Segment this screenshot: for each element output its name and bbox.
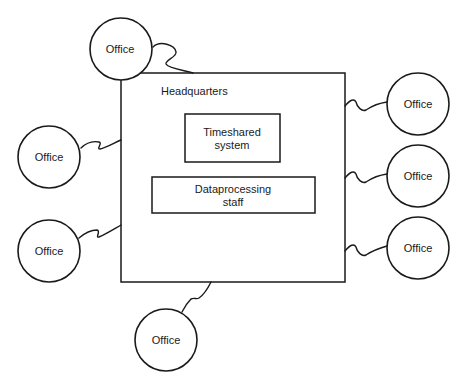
link-top-office bbox=[153, 44, 193, 73]
office-node-right-lower: Office bbox=[387, 217, 449, 279]
link-bottom-office bbox=[182, 282, 211, 312]
link-right-upper-office bbox=[345, 100, 387, 111]
office-node-right-middle: Office bbox=[387, 145, 449, 207]
link-left-upper-office bbox=[81, 140, 121, 149]
office-label: Office bbox=[106, 43, 135, 55]
office-label: Office bbox=[404, 242, 433, 254]
dataprocessing-staff-label-line1: Dataprocessing bbox=[195, 183, 271, 195]
office-label: Office bbox=[35, 245, 64, 257]
headquarters-label: Headquarters bbox=[161, 85, 228, 97]
office-node-top: Office bbox=[90, 18, 152, 80]
office-label: Office bbox=[152, 334, 181, 346]
office-label: Office bbox=[404, 98, 433, 110]
link-right-lower-office bbox=[345, 245, 387, 256]
link-left-lower-office bbox=[79, 225, 121, 238]
office-label: Office bbox=[35, 151, 64, 163]
office-node-right-upper: Office bbox=[387, 73, 449, 135]
link-right-middle-office bbox=[345, 172, 387, 183]
timeshared-system-label-line1: Timeshared bbox=[203, 126, 261, 138]
network-diagram: Headquarters Timeshared system Dataproce… bbox=[0, 0, 464, 389]
dataprocessing-staff-label-line2: staff bbox=[223, 196, 245, 208]
timeshared-system-box bbox=[185, 114, 280, 162]
office-label: Office bbox=[404, 170, 433, 182]
office-node-left-upper: Office bbox=[18, 126, 80, 188]
office-node-left-lower: Office bbox=[18, 220, 80, 282]
office-node-bottom: Office bbox=[135, 309, 197, 371]
timeshared-system-label-line2: system bbox=[215, 139, 250, 151]
